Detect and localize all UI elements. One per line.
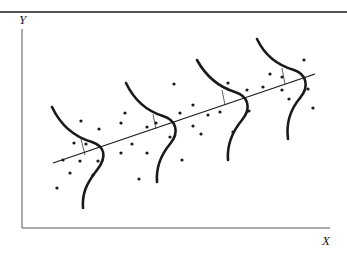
data-point [119, 121, 122, 124]
data-point [91, 173, 94, 176]
data-point [191, 103, 194, 106]
data-point [154, 121, 157, 124]
regression-line [53, 74, 315, 163]
deviation-ticks-layer [81, 68, 285, 155]
data-point [55, 186, 58, 189]
regression-line-layer [53, 74, 315, 163]
data-point [180, 158, 183, 161]
data-point [302, 58, 305, 61]
data-point [280, 88, 283, 91]
data-point [199, 132, 202, 135]
distribution-2-curve [126, 83, 176, 182]
data-point [79, 119, 82, 122]
data-point [231, 130, 234, 133]
data-point [261, 85, 264, 88]
regression-diagram: Y X [0, 0, 347, 256]
data-point [97, 127, 100, 130]
distribution-1-curve [52, 107, 103, 208]
x-axis-label: X [321, 233, 331, 248]
data-point [119, 151, 122, 154]
y-axis-label: Y [19, 12, 28, 27]
data-point [306, 87, 309, 90]
data-point [61, 158, 64, 161]
data-point [311, 106, 314, 109]
data-point [96, 159, 99, 162]
distribution-curves-layer [52, 39, 306, 208]
distribution-3-curve [197, 60, 248, 160]
data-point [123, 111, 126, 114]
data-point [268, 72, 271, 75]
data-point [172, 82, 175, 85]
distribution-3-deviation-tick [222, 90, 225, 105]
data-point [72, 141, 75, 144]
data-point [280, 75, 283, 78]
data-point [226, 81, 229, 84]
data-point [137, 177, 140, 180]
data-point [206, 113, 209, 116]
data-points-layer [55, 58, 314, 189]
data-point [178, 111, 181, 114]
data-point [145, 151, 148, 154]
data-point [245, 88, 248, 91]
data-point [191, 124, 194, 127]
data-point [287, 97, 290, 100]
data-point [145, 125, 148, 128]
diagram-canvas: Y X [0, 0, 347, 256]
data-point [130, 142, 133, 145]
data-point [84, 142, 87, 145]
data-point [68, 171, 71, 174]
data-point [218, 110, 221, 113]
data-point [168, 135, 171, 138]
data-point [247, 109, 250, 112]
data-point [78, 159, 81, 162]
